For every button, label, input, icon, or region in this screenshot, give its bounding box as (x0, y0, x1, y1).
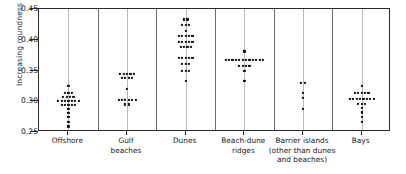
data-point (71, 92, 73, 94)
data-point (183, 18, 185, 20)
data-point (185, 57, 187, 59)
data-point (361, 111, 363, 113)
x-axis-tick-label-line: ridges (221, 146, 265, 156)
x-axis-tick-label-line: Bays (352, 136, 370, 146)
x-axis-tick-label-line: Barrier islands (269, 136, 336, 146)
data-point (191, 41, 193, 43)
data-point (186, 46, 188, 48)
data-point (243, 69, 245, 71)
data-point (262, 59, 264, 61)
data-point (69, 96, 71, 98)
x-axis-tick (126, 131, 127, 135)
data-point (191, 35, 193, 37)
data-point (179, 46, 181, 48)
data-point (185, 41, 187, 43)
data-point (238, 64, 240, 66)
x-axis-tick-label-line: Dunes (173, 136, 196, 146)
x-axis-tick-label-line: Beach-dune (221, 136, 265, 146)
data-point (71, 104, 73, 106)
data-point (67, 100, 69, 102)
data-point (67, 104, 69, 106)
data-point (364, 103, 366, 105)
data-point (178, 57, 180, 59)
data-point (67, 116, 69, 118)
data-point (67, 108, 69, 110)
data-point (117, 99, 119, 101)
category-separator (156, 9, 157, 130)
data-point (185, 35, 187, 37)
data-point (67, 85, 69, 87)
data-point (248, 64, 250, 66)
x-axis-tick-label: Barrier islands(other than dunesand beac… (269, 136, 336, 165)
data-point (77, 100, 79, 102)
data-point (64, 104, 66, 106)
data-point (361, 103, 363, 105)
data-point (67, 92, 69, 94)
data-point (131, 99, 133, 101)
data-point (349, 98, 351, 100)
data-point (183, 46, 185, 48)
data-point (191, 57, 193, 59)
data-point (67, 120, 69, 122)
data-point (238, 59, 240, 61)
category-guide-line (303, 9, 304, 130)
data-point (133, 72, 135, 74)
data-point (302, 108, 304, 110)
x-axis-tick (243, 131, 244, 135)
data-point (124, 77, 126, 79)
x-axis-tick-label-line: Gulf (111, 136, 142, 146)
data-point (74, 100, 76, 102)
plot-area (38, 8, 390, 131)
data-point (181, 69, 183, 71)
data-point (188, 24, 190, 26)
data-point (66, 96, 68, 98)
data-point (128, 103, 130, 105)
y-axis-tick-label: 0.30 (12, 96, 38, 105)
data-point (357, 103, 359, 105)
data-point (372, 98, 374, 100)
category-guide-line (127, 9, 128, 130)
x-axis-tick-label-line: and beaches) (269, 155, 336, 165)
data-point (62, 96, 64, 98)
data-point (71, 100, 73, 102)
y-axis-tick-label: 0.40 (12, 34, 38, 43)
data-point (181, 24, 183, 26)
data-point (300, 82, 302, 84)
category-separator (98, 9, 99, 130)
data-point (231, 59, 233, 61)
data-point (185, 69, 187, 71)
data-point (181, 63, 183, 65)
data-point (369, 98, 371, 100)
data-point (188, 69, 190, 71)
x-axis-tick-label-line: beaches (111, 146, 142, 156)
data-point (252, 59, 254, 61)
category-separator (274, 9, 275, 130)
data-point (361, 116, 363, 118)
data-point (190, 46, 192, 48)
x-axis-tick-label: Gulfbeaches (111, 136, 142, 155)
data-point (235, 59, 237, 61)
data-point (128, 99, 130, 101)
data-point (134, 99, 136, 101)
x-axis-tick-label: Beach-duneridges (221, 136, 265, 155)
data-point (361, 120, 363, 122)
data-point (259, 59, 261, 61)
data-point (123, 72, 125, 74)
category-separator (215, 9, 216, 130)
data-point (126, 88, 128, 90)
x-axis-tick (302, 131, 303, 135)
data-point (302, 97, 304, 99)
data-point (361, 85, 363, 87)
data-point (129, 72, 131, 74)
x-axis-tick (361, 131, 362, 135)
data-point (67, 125, 69, 127)
category-separator (332, 9, 333, 130)
data-point (354, 92, 356, 94)
data-point (128, 77, 130, 79)
data-point (185, 24, 187, 26)
y-axis-tick-label: 0.25 (12, 127, 38, 136)
data-point (181, 35, 183, 37)
data-point (188, 57, 190, 59)
y-axis-tick-label: 0.35 (12, 65, 38, 74)
data-point (361, 92, 363, 94)
